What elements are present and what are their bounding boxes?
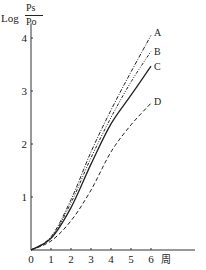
x-tick-label: 5 xyxy=(128,253,134,265)
y-tick-label: 1 xyxy=(22,191,28,203)
series-line-d xyxy=(31,103,151,250)
x-tick-label: 6 xyxy=(148,253,154,265)
y-tick-label: 3 xyxy=(22,85,28,97)
x-tick-label: 2 xyxy=(68,253,74,265)
series-group xyxy=(31,35,151,250)
x-tick-label: 0 xyxy=(28,253,34,265)
x-tick-label: 4 xyxy=(108,253,114,265)
x-tick-label: 3 xyxy=(88,253,94,265)
series-line-c xyxy=(31,66,151,250)
series-label-d: D xyxy=(154,96,161,107)
series-labels: ABCD xyxy=(154,27,162,107)
series-label-b: B xyxy=(154,46,161,57)
y-tick-label: 4 xyxy=(22,32,28,44)
axes: 12340123456周 xyxy=(22,23,196,265)
series-label-a: A xyxy=(154,27,162,38)
series-label-c: C xyxy=(154,61,161,72)
series-line-b xyxy=(31,51,151,250)
series-line-a xyxy=(31,35,151,250)
x-tick-label: 1 xyxy=(48,253,54,265)
x-axis-label: 周 xyxy=(161,254,171,265)
line-chart: 12340123456周 ABCD xyxy=(0,0,206,270)
y-tick-label: 2 xyxy=(22,138,28,150)
